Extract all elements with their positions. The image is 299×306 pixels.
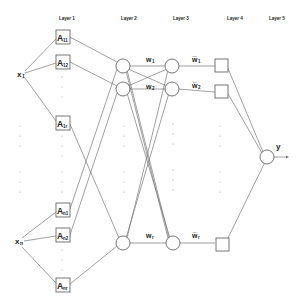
layer4-nodes — [215, 59, 229, 251]
layer1-node-A1r: A 1r — [56, 116, 70, 130]
svg-text:1r: 1r — [63, 124, 68, 129]
weight-w2: w — [145, 83, 152, 90]
output-node — [260, 150, 274, 164]
svg-text:2: 2 — [198, 85, 201, 90]
layer-3-label: Layer 3 — [173, 16, 189, 21]
layer2-node-1 — [116, 59, 130, 73]
layer1-layer2-edges — [70, 37, 119, 284]
layer-4-label: Layer 4 — [227, 16, 243, 21]
weight-w1: w — [145, 56, 152, 63]
svg-text:11: 11 — [63, 38, 68, 43]
layer2-layer3-edges — [126, 66, 170, 243]
layer1-node-An1: A n1 — [56, 203, 70, 217]
layer3-node-r — [166, 236, 180, 250]
layer2-node-2 — [116, 82, 130, 96]
svg-text:n2: n2 — [63, 236, 69, 241]
svg-text:n1: n1 — [63, 211, 69, 216]
input-x1-sub: 1 — [22, 73, 25, 79]
input-xn: x n — [15, 237, 23, 246]
weight-wbar1: w̅ — [191, 56, 198, 63]
layer3-nodes — [165, 59, 180, 250]
layer3-layer4-edges — [178, 66, 215, 243]
layer4-node-r — [216, 238, 229, 251]
output-arrow — [273, 156, 289, 159]
layer-headers: Layer 1 Layer 2 Layer 3 Layer 4 Layer 5 — [59, 16, 285, 21]
layer-1-label: Layer 1 — [59, 16, 75, 21]
svg-text:r: r — [198, 235, 200, 240]
fuzzy-neural-network-diagram: Layer 1 Layer 2 Layer 3 Layer 4 Layer 5 — [0, 0, 299, 306]
layer4-node-2 — [215, 85, 228, 98]
layer1-node-An2: A n2 — [56, 228, 70, 242]
svg-text:1: 1 — [152, 59, 155, 64]
input-xn-sub: n — [20, 240, 23, 246]
layer-2-label: Layer 2 — [121, 16, 137, 21]
layer3-node-2 — [165, 82, 179, 96]
layer1-node-Anr: A nr — [56, 278, 70, 292]
weight-wbarr: w̅ — [191, 232, 198, 239]
layer3-node-1 — [165, 59, 179, 73]
layer1-node-A12: A 12 — [56, 55, 70, 69]
layer2-nodes — [116, 59, 130, 250]
layer4-layer5-edges — [227, 66, 265, 240]
layer-5-label: Layer 5 — [269, 16, 285, 21]
weight-wbar2: w̅ — [191, 82, 198, 89]
svg-text:12: 12 — [63, 63, 69, 68]
input-edges — [22, 39, 56, 283]
layer1-node-A11: A 11 — [56, 30, 70, 44]
layer2-node-r — [116, 236, 130, 250]
layer4-node-1 — [215, 59, 228, 72]
weight-wr: w — [145, 232, 152, 239]
input-x1: x 1 — [17, 70, 25, 79]
svg-text:1: 1 — [198, 59, 201, 64]
weights-layer3-4: w̅ 1 w̅ 2 w̅ r — [191, 56, 201, 240]
svg-text:2: 2 — [152, 86, 155, 91]
layer5-output-node: y — [260, 142, 281, 164]
output-y-label: y — [276, 142, 281, 151]
svg-text:nr: nr — [63, 286, 68, 291]
svg-text:r: r — [152, 235, 154, 240]
